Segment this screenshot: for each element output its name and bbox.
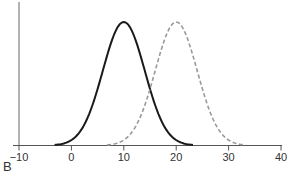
x-tick-label: 30	[222, 151, 234, 163]
x-ticks	[19, 146, 281, 151]
x-tick-label: 0	[68, 151, 74, 163]
solid-curve	[55, 22, 193, 145]
x-tick-label: 10	[118, 151, 130, 163]
panel-label: B	[3, 159, 12, 174]
x-tick-labels: −10010203040	[10, 151, 287, 163]
dashed-curve	[107, 22, 245, 145]
x-tick-label: 20	[170, 151, 182, 163]
chart: −10010203040	[0, 0, 290, 177]
x-tick-label: 40	[275, 151, 287, 163]
x-tick-label: −10	[10, 151, 29, 163]
